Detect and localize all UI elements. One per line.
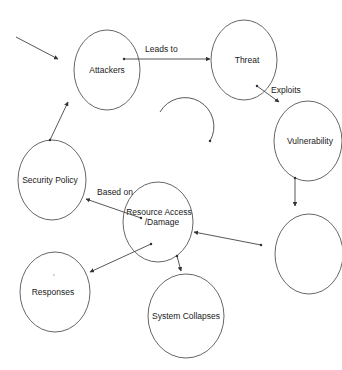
edge-label-exploits: Exploits [271,85,301,95]
edge-empty-resource [194,232,261,245]
node-threat: Threat [211,20,277,100]
node-label: System Collapses [152,311,220,321]
edge-security-attackers [50,102,68,140]
node-security-policy: Security Policy [18,140,86,220]
edge-resource-collapse [177,256,181,271]
threat-cycle-diagram: Attackers Threat Vulnerability Resource … [0,0,342,370]
node-label: Responses [32,287,75,297]
edge-label-leads-to: Leads to [145,44,178,54]
node-responses: Responses [20,252,90,332]
node-label: Threat [235,55,260,65]
cycle-arc-icon [160,98,214,141]
node-vulnerability: Vulnerability [274,101,342,181]
node-empty [275,214,342,294]
node-label-line1: Resource Access [126,207,192,217]
edge-label-based-on: Based on [97,187,133,197]
edge-external-attackers [16,37,58,59]
node-system-collapses: System Collapses [148,274,224,358]
node-attackers: Attackers [74,30,140,110]
node-label: Vulnerability [287,136,334,146]
node-label: Attackers [89,65,124,75]
node-label-line2: /Damage [145,217,180,227]
node-label: Security Policy [22,175,78,185]
dot-mark [53,274,55,276]
node-resource-access: Resource Access /Damage [123,182,193,262]
